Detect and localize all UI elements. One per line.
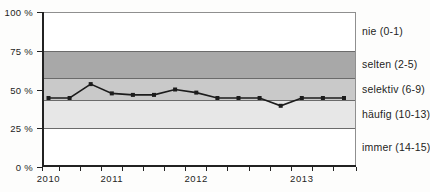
- x-tick-12: [291, 167, 292, 171]
- x-tick-13: [312, 167, 313, 171]
- data-point-marker-11: [279, 104, 283, 108]
- band-label-immer: immer (14-15): [362, 141, 430, 154]
- trend-line-svg: [42, 12, 356, 167]
- x-tick-3: [101, 167, 102, 171]
- y-axis-label-100: 100 %: [0, 7, 33, 18]
- x-axis-line: [42, 165, 356, 167]
- data-point-marker-2: [89, 82, 93, 86]
- data-point-marker-10: [258, 96, 262, 100]
- x-tick-15: [356, 167, 357, 171]
- band-label-hufig: häufig (10-13): [362, 108, 430, 121]
- data-point-marker-12: [300, 96, 304, 100]
- x-tick-10: [249, 167, 250, 171]
- x-tick-6: [164, 167, 165, 171]
- band-label-selektiv: selektiv (6-9): [362, 83, 430, 96]
- data-point-marker-8: [215, 96, 219, 100]
- x-axis-year-label-2010: 2010: [27, 173, 71, 184]
- y-axis-label-0: 0 %: [0, 162, 33, 173]
- data-point-marker-1: [68, 96, 72, 100]
- x-tick-2: [80, 167, 81, 171]
- y-axis-label-50: 50 %: [0, 85, 33, 96]
- x-tick-7: [185, 167, 186, 171]
- x-tick-0: [42, 167, 43, 171]
- y-axis-line: [42, 12, 44, 167]
- data-point-marker-0: [47, 96, 51, 100]
- data-point-marker-3: [110, 91, 114, 95]
- x-tick-11: [270, 167, 271, 171]
- x-axis-year-label-2012: 2012: [174, 173, 218, 184]
- data-point-marker-9: [237, 96, 241, 100]
- y-axis-label-75: 75 %: [0, 46, 33, 57]
- data-point-marker-4: [131, 93, 135, 97]
- x-axis-year-label-2013: 2013: [280, 173, 324, 184]
- data-point-marker-6: [173, 88, 177, 92]
- x-tick-14: [333, 167, 334, 171]
- trend-line: [49, 84, 345, 106]
- x-axis-year-label-2011: 2011: [90, 173, 134, 184]
- plot-area: [42, 12, 356, 167]
- data-point-marker-5: [152, 93, 156, 97]
- x-tick-8: [206, 167, 207, 171]
- x-tick-5: [143, 167, 144, 171]
- band-label-selten: selten (2-5): [362, 58, 430, 71]
- x-tick-9: [227, 167, 228, 171]
- x-tick-1: [59, 167, 60, 171]
- line-chart-figure: nie (0-1)selten (2-5)selektiv (6-9)häufi…: [0, 0, 430, 192]
- band-label-nie: nie (0-1): [362, 25, 430, 38]
- data-point-marker-14: [342, 96, 346, 100]
- x-tick-4: [122, 167, 123, 171]
- plot-border-top: [42, 12, 356, 13]
- plot-border-right: [355, 12, 356, 167]
- y-axis-label-25: 25 %: [0, 123, 33, 134]
- data-point-marker-13: [321, 96, 325, 100]
- data-point-marker-7: [194, 91, 198, 95]
